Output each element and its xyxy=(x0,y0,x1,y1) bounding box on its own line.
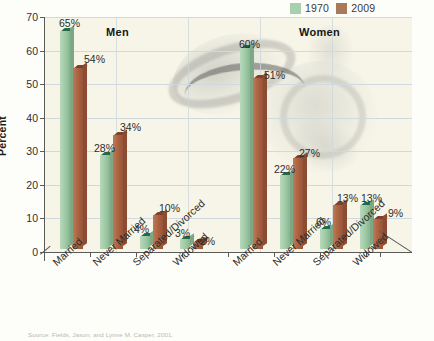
legend-label-2009: 2009 xyxy=(351,2,375,14)
value-label-men-never-married-1970: 28% xyxy=(94,142,115,154)
chart-figure: 1970 2009 xyxy=(0,0,434,341)
panel-title-women: Women xyxy=(299,26,340,38)
y-tick-60 xyxy=(40,51,45,52)
value-label-men-never-married-2009: 34% xyxy=(120,121,141,133)
value-label-women-married-2009: 51% xyxy=(264,69,285,81)
chart-legend: 1970 2009 xyxy=(290,2,375,14)
gridline-50 xyxy=(44,84,412,85)
y-tick-label-40: 40 xyxy=(26,112,38,124)
value-label-women-never-married-2009: 27% xyxy=(299,147,320,159)
y-tick-label-60: 60 xyxy=(26,45,38,57)
value-label-men-married-1970: 65% xyxy=(59,17,80,29)
gridline-70 xyxy=(44,17,412,18)
bar-men-married-2009 xyxy=(73,68,83,249)
axis-origin-break xyxy=(40,244,50,254)
y-axis: 70 60 50 40 30 20 10 0 xyxy=(44,17,45,261)
legend-label-1970: 1970 xyxy=(305,2,329,14)
legend-item-2009: 2009 xyxy=(336,2,375,14)
bar-men-never-married-1970 xyxy=(100,155,110,249)
value-label-men-separated-2009: 10% xyxy=(159,202,180,214)
y-tick-label-0: 0 xyxy=(32,246,38,258)
y-tick-50 xyxy=(40,84,45,85)
y-tick-70 xyxy=(40,17,45,18)
bar-women-married-1970 xyxy=(240,48,250,249)
value-label-women-married-1970: 60% xyxy=(239,38,260,50)
value-label-women-never-married-1970: 22% xyxy=(274,163,295,175)
gridline-60 xyxy=(44,51,412,52)
source-note: Source: Fields, Jason, and Lynne M. Casp… xyxy=(28,331,173,338)
value-label-women-widowed-2009: 9% xyxy=(388,207,403,219)
y-tick-30 xyxy=(40,151,45,152)
value-label-women-separated-2009: 13% xyxy=(337,192,358,204)
legend-item-1970: 1970 xyxy=(290,2,329,14)
y-tick-20 xyxy=(40,185,45,186)
y-tick-10 xyxy=(40,218,45,219)
y-tick-label-50: 50 xyxy=(26,78,38,90)
gridline-40 xyxy=(44,118,412,119)
y-tick-label-70: 70 xyxy=(26,11,38,23)
bar-women-never-married-1970 xyxy=(280,175,290,249)
x-tick-4 xyxy=(228,252,229,257)
legend-swatch-2009 xyxy=(336,3,347,14)
bar-women-married-2009 xyxy=(253,78,263,249)
panel-title-men: Men xyxy=(106,26,129,38)
y-tick-label-30: 30 xyxy=(26,145,38,157)
x-tick-1 xyxy=(90,252,91,257)
y-tick-label-20: 20 xyxy=(26,179,38,191)
y-tick-40 xyxy=(40,118,45,119)
value-label-men-married-2009: 54% xyxy=(84,53,105,65)
legend-swatch-1970 xyxy=(290,3,301,14)
y-tick-label-10: 10 xyxy=(26,212,38,224)
bar-men-married-1970 xyxy=(60,31,70,249)
y-axis-title: Percent xyxy=(0,116,8,156)
